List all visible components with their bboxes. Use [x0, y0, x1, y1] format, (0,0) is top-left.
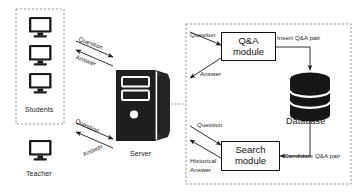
edge-label-search-question: Question [197, 122, 223, 129]
arrow-candidate-qa-pair [280, 122, 310, 156]
teacher-monitor [29, 140, 52, 160]
search-module-node[interactable]: Search module [221, 141, 280, 171]
qa-module-text: Q&A module [233, 36, 264, 57]
database-label: Database [286, 117, 325, 126]
student-monitor-3 [29, 73, 52, 93]
diagram-vector-layer [0, 0, 356, 194]
qa-module-line2: module [233, 47, 264, 58]
student-monitor-1 [29, 17, 52, 37]
arrow-insert-qa-pair [275, 47, 310, 70]
arrow-historical-answer [190, 140, 221, 158]
server-tower-icon [116, 70, 170, 141]
arrow-search-question [190, 126, 221, 145]
qa-module-node[interactable]: Q&A module [221, 32, 276, 61]
search-module-text: Search module [235, 145, 266, 166]
edge-label-insert-qa-pair: Insert Q&A pair [277, 35, 320, 42]
qa-module-line1: Q&A [233, 36, 264, 47]
students-label: Students [25, 106, 53, 113]
server-label: Server [130, 150, 151, 157]
edge-label-candidate-qa-pair: Candidate Q&A pair [284, 153, 341, 160]
edge-label-qa-question: Question [190, 32, 216, 39]
edge-label-qa-answer: Answer [200, 71, 221, 78]
diagram-canvas: Q&A module Search module Students Teache… [0, 0, 356, 194]
edge-label-historical-answer-line1: Historical [190, 158, 216, 165]
student-monitor-2 [29, 45, 52, 65]
search-module-line2: module [235, 156, 266, 167]
edge-label-historical-answer-line2: Answer [190, 167, 211, 174]
database-cylinder-icon [290, 73, 330, 122]
teacher-label: Teacher [26, 170, 52, 177]
